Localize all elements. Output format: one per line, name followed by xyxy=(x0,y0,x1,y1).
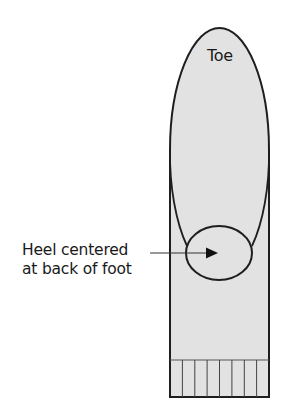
heel-label-line-1: Heel centered xyxy=(22,241,132,260)
sock-diagram xyxy=(0,0,290,417)
foot-body xyxy=(170,28,269,397)
heel-label-line-2: at back of foot xyxy=(22,260,132,279)
heel-label: Heel centered at back of foot xyxy=(22,241,132,279)
toe-label: Toe xyxy=(207,46,233,65)
